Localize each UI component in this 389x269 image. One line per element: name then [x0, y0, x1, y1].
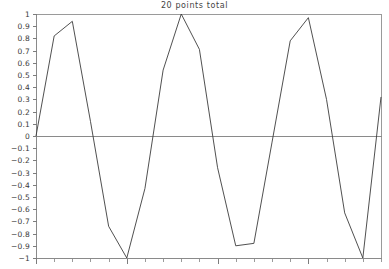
- y-tick-label: 0.7: [17, 47, 30, 56]
- y-tick-label: −1: [19, 254, 30, 263]
- y-tick-label: 1: [25, 10, 30, 19]
- y-tick-label: 0.9: [17, 22, 30, 31]
- y-tick-label: 0.3: [17, 95, 30, 104]
- y-tick-label: −0.7: [11, 217, 30, 226]
- y-tick-label: 0: [25, 132, 30, 141]
- y-tick-label: −0.4: [11, 181, 30, 190]
- y-tick-label: 0.6: [17, 59, 30, 68]
- y-tick-label: −0.2: [11, 156, 30, 165]
- y-tick-label: 0.4: [17, 83, 30, 92]
- y-tick-label: 0.5: [17, 71, 30, 80]
- y-tick-label: 0.8: [17, 34, 30, 43]
- y-tick-label: 0.2: [17, 108, 30, 117]
- y-tick-label: −0.6: [11, 205, 30, 214]
- y-tick-label: 0.1: [17, 120, 30, 129]
- y-tick-label: −0.3: [11, 169, 30, 178]
- chart-container: 20 points total 10.90.80.70.60.50.40.30.…: [0, 0, 389, 269]
- y-tick-label: −0.5: [11, 193, 30, 202]
- line-chart-plot: 10.90.80.70.60.50.40.30.20.10−0.1−0.2−0.…: [0, 0, 389, 269]
- y-tick-label: −0.9: [11, 242, 30, 251]
- y-tick-label: −0.1: [11, 144, 30, 153]
- y-tick-label: −0.8: [11, 230, 30, 239]
